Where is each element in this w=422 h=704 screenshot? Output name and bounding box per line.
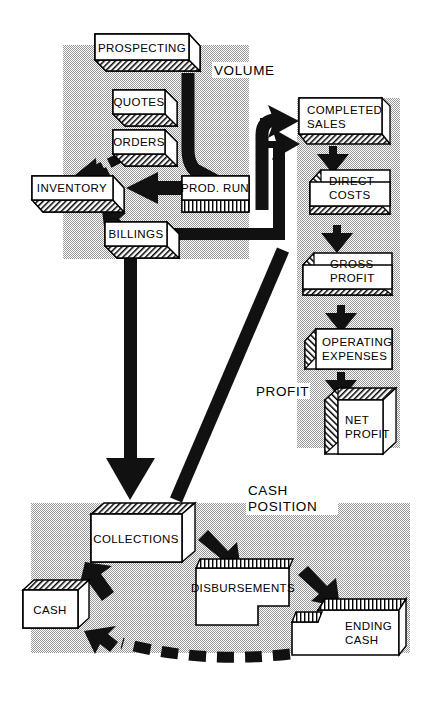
box-orders-label: ORDERS: [113, 136, 165, 148]
flow-diagram: VOLUME PROFIT CASH POSITION: [0, 0, 422, 704]
panel-label-profit: PROFIT: [254, 383, 310, 399]
panel-label-volume: VOLUME: [212, 62, 276, 78]
box-inventory[interactable]: INVENTORY: [32, 176, 124, 212]
box-direct-costs-label-line2: COSTS: [329, 189, 371, 201]
box-completed-sales[interactable]: COMPLETED SALES: [299, 98, 390, 144]
diagram-canvas: VOLUME PROFIT CASH POSITION: [0, 0, 422, 704]
box-collections-label: COLLECTIONS: [93, 533, 179, 545]
box-prospecting-label: PROSPECTING: [98, 42, 186, 54]
box-operating-expenses[interactable]: OPERATING EXPENSES: [305, 329, 392, 369]
box-ending-cash-label-line1: ENDING: [345, 620, 392, 632]
panel-profit-label: PROFIT: [256, 384, 309, 399]
box-operating-expenses-label-line2: EXPENSES: [322, 350, 387, 362]
panel-cash-label-line2: POSITION: [248, 499, 317, 514]
box-quotes[interactable]: QUOTES: [113, 90, 177, 126]
box-ending-cash-label-line2: CASH: [345, 634, 379, 646]
box-gross-profit[interactable]: GROSS PROFIT: [303, 253, 392, 295]
flow-completed-sales-to-collections: [176, 250, 283, 500]
flow-billings-to-collections: [106, 244, 155, 500]
box-prod-run[interactable]: PROD. RUN: [181, 176, 249, 212]
panel-label-cash: CASH POSITION: [246, 482, 338, 515]
box-inventory-label: INVENTORY: [37, 182, 107, 194]
box-completed-sales-label-line2: SALES: [307, 118, 346, 130]
box-completed-sales-label-line1: COMPLETED: [307, 104, 382, 116]
box-prospecting[interactable]: PROSPECTING: [95, 34, 200, 71]
box-quotes-label: QUOTES: [114, 96, 165, 108]
box-billings[interactable]: BILLINGS: [105, 222, 179, 258]
box-collections[interactable]: COLLECTIONS: [91, 503, 195, 562]
box-net-profit-label-line1: NET: [345, 414, 369, 426]
box-cash[interactable]: CASH: [23, 580, 89, 628]
box-prod-run-label: PROD. RUN: [181, 182, 249, 194]
box-gross-profit-label-line1: GROSS: [330, 258, 374, 270]
box-orders[interactable]: ORDERS: [113, 130, 177, 166]
box-net-profit-label-line2: PROFIT: [345, 428, 390, 440]
box-net-profit[interactable]: NET PROFIT: [325, 388, 396, 454]
box-cash-label: CASH: [33, 604, 67, 616]
panel-volume-label: VOLUME: [214, 63, 275, 78]
box-direct-costs-label-line1: DIRECT: [329, 175, 374, 187]
box-operating-expenses-label-line1: OPERATING: [322, 336, 392, 348]
box-direct-costs[interactable]: DIRECT COSTS: [310, 170, 390, 214]
panel-cash-label-line1: CASH: [248, 483, 288, 498]
box-gross-profit-label-line2: PROFIT: [330, 272, 375, 284]
box-billings-label: BILLINGS: [109, 228, 164, 240]
box-disbursements-label: DISBURSEMENTS: [191, 582, 295, 594]
